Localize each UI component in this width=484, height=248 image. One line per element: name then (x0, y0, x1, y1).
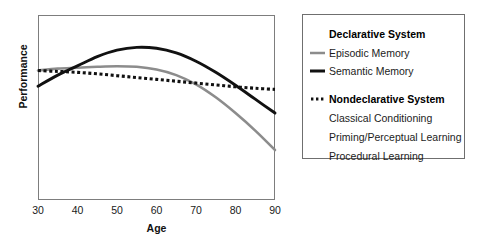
curves-layer (38, 15, 275, 200)
legend-group-declarative: Declarative System (310, 24, 456, 44)
legend-item-classical-conditioning[interactable]: Classical Conditioning (310, 109, 456, 128)
series-line-nondeclarative (38, 71, 275, 90)
legend-label-semantic-memory: Semantic Memory (329, 65, 414, 78)
legend-label-procedural-learning: Procedural Learning (329, 150, 424, 163)
x-axis-tick-labels: 30405060708090 (38, 203, 275, 217)
legend-item-priming-perceptual-learning[interactable]: Priming/Perceptual Learning (310, 128, 456, 147)
legend-item-procedural-learning[interactable]: Procedural Learning (310, 147, 456, 166)
legend-spacer-icon (310, 132, 325, 144)
legend-group-nondeclarative: Nondeclarative System (310, 89, 456, 109)
legend-item-semantic-memory[interactable]: Semantic Memory (310, 62, 456, 80)
legend-label-priming-perceptual-learning: Priming/Perceptual Learning (329, 131, 462, 144)
legend-label-classical-conditioning: Classical Conditioning (329, 112, 432, 125)
plot-area (38, 15, 275, 200)
x-tick-label: 80 (230, 203, 242, 217)
x-tick-label: 70 (190, 203, 202, 217)
x-tick-label: 90 (269, 203, 281, 217)
x-tick-label: 30 (32, 203, 44, 217)
solid-black-line-icon (310, 65, 325, 77)
legend-spacer-icon (310, 151, 325, 163)
legend-heading-nondeclarative: Nondeclarative System (329, 93, 445, 106)
legend-item-episodic-memory[interactable]: Episodic Memory (310, 44, 456, 62)
y-axis-title: Performance (17, 32, 30, 122)
x-axis-title: Age (38, 222, 275, 235)
dotted-black-line-icon (310, 93, 325, 105)
x-tick-label: 60 (151, 203, 163, 217)
legend-spacer-icon (310, 28, 325, 40)
x-tick-label: 40 (72, 203, 84, 217)
legend-heading-declarative: Declarative System (329, 28, 425, 41)
legend-spacer-icon (310, 113, 325, 125)
legend-label-episodic-memory: Episodic Memory (329, 47, 410, 60)
chart-figure: 30405060708090 Age Performance Declarati… (0, 0, 484, 248)
x-tick-label: 50 (111, 203, 123, 217)
solid-gray-line-icon (310, 47, 325, 59)
legend-divider-space (310, 80, 456, 89)
legend: Declarative System Episodic Memory Seman… (302, 14, 465, 159)
